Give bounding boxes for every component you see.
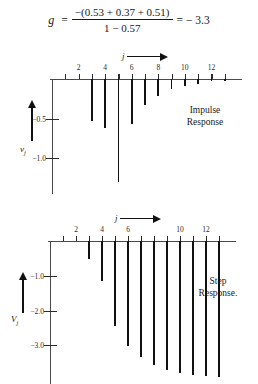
equation-fraction: −(0.53 + 0.37 + 0.51) 1 − 0.57 <box>72 6 173 34</box>
step-caption-line2: Response. <box>178 288 258 300</box>
step-response-stem <box>205 241 207 376</box>
equation-equals-sign: = <box>57 14 72 26</box>
step-response-stem <box>101 241 103 281</box>
impulse-y-axis-name: vj <box>20 144 26 156</box>
impulse-response-stem <box>131 79 133 124</box>
impulse-y-arrow-line <box>31 107 33 141</box>
impulse-caption-line1: Impulse <box>160 105 250 117</box>
impulse-response-stem <box>224 79 226 81</box>
impulse-response-x-tick <box>65 74 66 79</box>
step-response-stem <box>140 241 142 357</box>
step-response-x-tick-label: 12 <box>202 225 210 234</box>
impulse-response-stem <box>157 79 159 96</box>
step-response-x-axis-line <box>48 241 236 242</box>
step-response-y-tick <box>44 276 57 277</box>
impulse-response-stem <box>144 79 146 105</box>
impulse-response-x-tick-label: 2 <box>77 63 81 72</box>
step-response-y-axis-line <box>50 241 51 384</box>
impulse-response-stem <box>184 79 186 86</box>
impulse-y-axis-arrow <box>28 100 36 141</box>
impulse-response-x-tick <box>79 74 80 79</box>
step-response-y-tick-label: −3.0 <box>18 341 44 350</box>
step-response-x-tick-label: 10 <box>176 225 184 234</box>
step-y-axis-name-sub: j <box>17 319 19 326</box>
impulse-response-stem <box>171 79 173 89</box>
step-response-stem <box>88 241 90 259</box>
step-response-stem <box>218 241 220 377</box>
step-response-stem <box>127 241 129 346</box>
step-response-stem <box>179 241 181 373</box>
step-response-caption: Step Response. <box>178 276 258 300</box>
impulse-response-stem <box>211 79 213 81</box>
step-y-axis-arrow <box>19 272 27 313</box>
step-y-arrow-line <box>22 279 24 313</box>
step-response-stem <box>153 241 155 365</box>
impulse-response-y-tick <box>46 119 59 120</box>
impulse-response-stem <box>91 79 93 121</box>
step-response-chart: j 2461012−1.0−2.0−3.0 Vj Step Response. <box>0 214 258 382</box>
impulse-caption-line2: Response <box>160 117 250 129</box>
step-response-y-tick <box>44 345 57 346</box>
impulse-response-caption: Impulse Response <box>160 105 250 129</box>
equation-numerator: −(0.53 + 0.37 + 0.51) <box>72 6 173 19</box>
step-response-x-tick-label: 6 <box>126 225 130 234</box>
equation-variable: g <box>48 13 57 28</box>
step-response-y-tick <box>44 311 57 312</box>
step-response-x-tick-label: 2 <box>74 225 78 234</box>
impulse-response-x-axis-line <box>50 79 242 80</box>
impulse-response-x-tick-label: 6 <box>130 63 134 72</box>
step-response-x-tick <box>63 236 64 241</box>
equation-block: g = −(0.53 + 0.37 + 0.51) 1 − 0.57 = − 3… <box>0 6 258 34</box>
impulse-response-stem <box>197 79 199 84</box>
step-y-axis-name: Vj <box>11 314 18 326</box>
impulse-response-chart: j 24681012−0.5−1.0 vj Impulse Response <box>0 52 258 192</box>
equation-denominator: 1 − 0.57 <box>101 20 143 34</box>
step-response-x-tick <box>76 236 77 241</box>
step-caption-line1: Step <box>178 276 258 288</box>
step-response-stem <box>192 241 194 375</box>
equation-result: = − 3.3 <box>173 14 210 26</box>
impulse-response-x-tick-label: 12 <box>208 63 216 72</box>
step-response-stem <box>114 241 116 326</box>
impulse-response-x-tick-label: 8 <box>156 63 160 72</box>
impulse-response-x-tick-label: 4 <box>103 63 107 72</box>
impulse-response-stem <box>104 79 106 128</box>
impulse-y-axis-name-sub: j <box>24 149 26 156</box>
impulse-response-x-tick-label: 10 <box>181 63 189 72</box>
step-response-x-tick-label: 4 <box>100 225 104 234</box>
impulse-response-y-axis-line <box>52 79 53 194</box>
impulse-response-stem <box>118 79 120 182</box>
impulse-response-y-tick <box>46 158 59 159</box>
step-response-stem <box>166 241 168 370</box>
